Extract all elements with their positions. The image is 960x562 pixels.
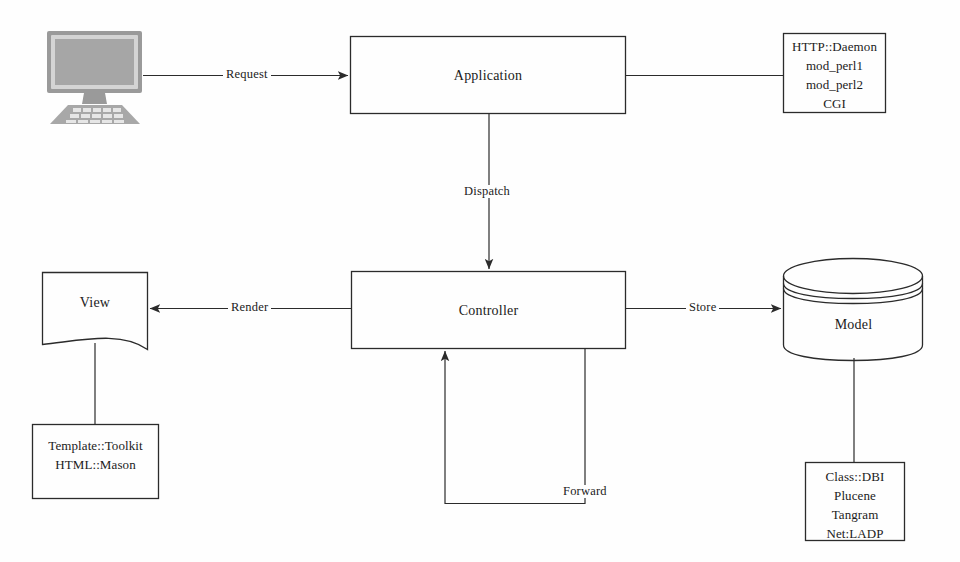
model-stack-line-1: Class::DBI: [806, 468, 904, 487]
edge-label-store: Store: [686, 301, 719, 314]
diagram-canvas: Application Controller View Model HTTP::…: [0, 0, 960, 562]
computer-monitor-icon: [47, 31, 142, 124]
model-stack-node-label: Class::DBI Plucene Tangram Net:LADP: [806, 468, 904, 543]
model-node: [784, 259, 923, 361]
server-stack-node-label: HTTP::Daemon mod_perl1 mod_perl2 CGI: [784, 38, 885, 113]
model-stack-line-3: Tangram: [806, 506, 904, 525]
server-stack-line-4: CGI: [784, 95, 885, 114]
edge-label-render: Render: [228, 301, 271, 314]
application-node: [351, 37, 626, 114]
view-stack-line-2: HTML::Mason: [33, 456, 158, 475]
edge-label-forward: Forward: [560, 485, 610, 498]
edge-label-dispatch: Dispatch: [461, 185, 513, 198]
view-stack-node-label: Template::Toolkit HTML::Mason: [33, 437, 158, 475]
server-stack-line-3: mod_perl2: [784, 76, 885, 95]
view-stack-line-1: Template::Toolkit: [33, 437, 158, 456]
edge-label-request: Request: [223, 68, 271, 81]
model-stack-line-4: Net:LADP: [806, 525, 904, 544]
server-stack-line-1: HTTP::Daemon: [784, 38, 885, 57]
model-stack-line-2: Plucene: [806, 487, 904, 506]
view-node: [43, 273, 148, 350]
edge-forward: [445, 349, 585, 504]
controller-node: [352, 272, 626, 349]
server-stack-line-2: mod_perl1: [784, 57, 885, 76]
